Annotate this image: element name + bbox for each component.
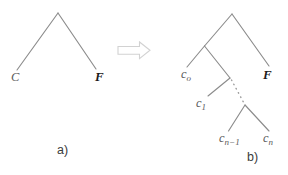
edge-root-to-f bbox=[232, 14, 269, 66]
node-label-c0: co bbox=[181, 68, 191, 83]
node-label-f-b: F bbox=[263, 68, 272, 81]
figure-container: C F a) co bbox=[0, 0, 288, 175]
edge-internal3-to-cn bbox=[245, 105, 269, 131]
node-label-cn-subscript: n bbox=[269, 137, 274, 147]
panel-b: co c1 cn−1 cn F b) bbox=[0, 0, 288, 175]
node-label-c1: c1 bbox=[196, 97, 206, 112]
node-label-cn: cn bbox=[263, 132, 273, 147]
node-label-c0-subscript: o bbox=[187, 73, 192, 83]
node-label-c1-subscript: 1 bbox=[202, 102, 207, 112]
edge-ellipsis-continuation bbox=[232, 80, 246, 105]
edge-internal1-to-internal2 bbox=[205, 46, 231, 78]
edge-internal2-to-c1 bbox=[208, 78, 230, 96]
edge-root-to-internal1 bbox=[205, 14, 233, 46]
edge-internal1-to-c0 bbox=[187, 46, 205, 67]
panel-b-caption: b) bbox=[247, 151, 258, 164]
node-label-cn-minus-1: cn−1 bbox=[219, 132, 240, 147]
panel-b-tree-graphic bbox=[0, 0, 288, 175]
edge-internal3-to-cn1 bbox=[229, 105, 246, 131]
node-label-cn-minus-1-subscript: n−1 bbox=[225, 137, 240, 147]
